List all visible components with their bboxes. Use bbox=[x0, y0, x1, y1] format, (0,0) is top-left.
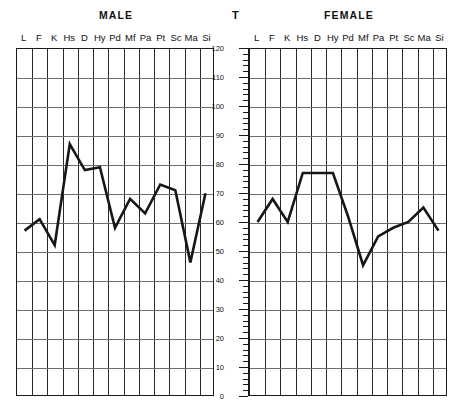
female-profile-panel: FEMALE LFKHsDHyPdMfPaPtScMaSi bbox=[233, 0, 465, 412]
female-series-svg bbox=[250, 49, 446, 395]
scale-header-si: Si bbox=[432, 31, 447, 45]
axis-tick-label: 60 bbox=[216, 218, 224, 227]
scale-header-pt: Pt bbox=[386, 31, 401, 45]
scale-header-d: D bbox=[77, 31, 92, 45]
scale-header-f: F bbox=[264, 31, 279, 45]
female-chart-title: FEMALE bbox=[233, 9, 465, 21]
scale-header-l: L bbox=[16, 31, 31, 45]
axis-tick-label: 40 bbox=[216, 276, 224, 285]
scale-header-pa: Pa bbox=[138, 31, 153, 45]
axis-tick-label: 20 bbox=[216, 334, 224, 343]
scale-header-f: F bbox=[31, 31, 46, 45]
scale-header-mf: Mf bbox=[356, 31, 371, 45]
axis-tick-label: 100 bbox=[211, 102, 224, 111]
male-plot-area bbox=[16, 48, 214, 396]
scale-header-hy: Hy bbox=[92, 31, 107, 45]
scale-header-pt: Pt bbox=[153, 31, 168, 45]
axis-tick-label: 0 bbox=[220, 392, 224, 401]
axis-tick-label: 110 bbox=[212, 73, 224, 82]
scale-header-k: K bbox=[279, 31, 294, 45]
axis-tick-label: 50 bbox=[216, 247, 224, 256]
male-profile-panel: MALE LFKHsDHyPdMfPaPtScMaSi bbox=[0, 0, 232, 412]
scale-header-sc: Sc bbox=[168, 31, 183, 45]
scale-header-mf: Mf bbox=[123, 31, 138, 45]
female-scale-headers: LFKHsDHyPdMfPaPtScMaSi bbox=[249, 31, 447, 45]
axis-tick-label: 80 bbox=[216, 160, 224, 169]
male-series-svg bbox=[17, 49, 213, 395]
scale-header-pd: Pd bbox=[340, 31, 355, 45]
axis-tick-label: 90 bbox=[216, 131, 224, 140]
scale-header-hs: Hs bbox=[295, 31, 310, 45]
scale-header-hs: Hs bbox=[62, 31, 77, 45]
scale-header-hy: Hy bbox=[325, 31, 340, 45]
scale-header-sc: Sc bbox=[401, 31, 416, 45]
axis-tick-label: 10 bbox=[216, 363, 224, 372]
female-profile-line bbox=[258, 173, 439, 265]
male-profile-line bbox=[25, 144, 206, 262]
axis-tick-label: 30 bbox=[216, 305, 224, 314]
scale-header-pa: Pa bbox=[371, 31, 386, 45]
axis-tick-label: 120 bbox=[211, 44, 224, 53]
scale-header-k: K bbox=[46, 31, 61, 45]
male-scale-headers: LFKHsDHyPdMfPaPtScMaSi bbox=[16, 31, 214, 45]
scale-header-l: L bbox=[249, 31, 264, 45]
scale-header-ma: Ma bbox=[184, 31, 199, 45]
male-chart-title: MALE bbox=[0, 9, 232, 21]
scale-header-pd: Pd bbox=[107, 31, 122, 45]
scale-header-d: D bbox=[310, 31, 325, 45]
axis-tick-label: 70 bbox=[216, 189, 224, 198]
scale-header-ma: Ma bbox=[417, 31, 432, 45]
female-plot-area bbox=[249, 48, 447, 396]
